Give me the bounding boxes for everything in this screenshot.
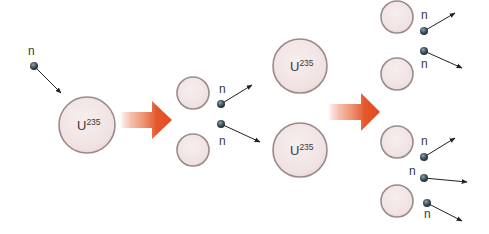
fission-fragment-2 (177, 134, 209, 166)
neutron-particle-icon (30, 62, 38, 70)
neutron-label: n (421, 57, 428, 71)
released-neutron-2: n (217, 120, 260, 148)
reaction-arrow-icon-1 (120, 101, 172, 139)
neutron-label: n (424, 207, 431, 221)
second-gen-neutron-3: n (420, 134, 455, 161)
reaction-arrow-icon-2 (328, 93, 380, 131)
second-gen-neutron-2: n (420, 47, 462, 71)
second-gen-neutron-1: n (420, 8, 455, 35)
fission-fragment-1 (177, 77, 209, 109)
second-gen-fragment-2-circle (381, 58, 413, 90)
neutron-label: n (409, 164, 416, 178)
second-gen-fragment-1-circle (381, 1, 413, 33)
fission-diagram-canvas: nU235nnU235U235nnnnn (0, 0, 489, 234)
fission-fragment-2-circle (177, 134, 209, 166)
second-gen-fragment-3-circle (381, 126, 413, 158)
second-gen-fragment-4-circle (381, 185, 413, 217)
released-neutron-1: n (217, 82, 252, 108)
neutron-particle-icon (420, 153, 428, 161)
neutron-trajectory-arrow (424, 138, 455, 157)
neutron-particle-icon (217, 100, 225, 108)
neutron-trajectory-arrow (424, 178, 467, 182)
neutron-trajectory-arrow (34, 66, 61, 93)
second-gen-fragment-4 (381, 185, 413, 217)
uranium-235-nucleus: U235 (59, 97, 115, 153)
neutron-particle-icon (423, 199, 431, 207)
second-gen-fragment-1 (381, 1, 413, 33)
neutron-label: n (219, 82, 226, 96)
neutron-particle-icon (420, 174, 428, 182)
fission-diagram: nU235nnU235U235nnnnn (0, 0, 489, 234)
second-gen-fragment-3 (381, 126, 413, 158)
incoming-neutron: n (28, 44, 61, 93)
neutron-label: n (421, 8, 428, 22)
neutron-trajectory-arrow (427, 203, 462, 221)
neutron-particle-icon (420, 47, 428, 55)
second-gen-neutron-5: n (423, 199, 462, 221)
uranium-235-nucleus-2: U235 (273, 39, 327, 93)
neutron-trajectory-arrow (221, 124, 260, 142)
second-gen-neutron-4: n (409, 164, 467, 182)
neutron-particle-icon (420, 27, 428, 35)
neutron-label: n (219, 134, 226, 148)
neutron-label: n (28, 44, 35, 58)
fission-fragment-1-circle (177, 77, 209, 109)
neutron-label: n (421, 134, 428, 148)
uranium-235-nucleus-3: U235 (273, 123, 327, 177)
neutron-trajectory-arrow (424, 13, 455, 31)
second-gen-fragment-2 (381, 58, 413, 90)
neutron-particle-icon (217, 120, 225, 128)
neutron-trajectory-arrow (424, 51, 462, 68)
